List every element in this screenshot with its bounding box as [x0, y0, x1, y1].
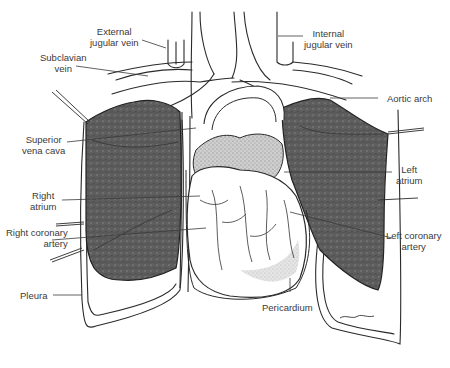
label-pericardium: Pericardium — [262, 302, 313, 313]
label-aortic-arch: Aortic arch — [387, 93, 432, 104]
leader-external-jugular — [142, 40, 166, 48]
right-lung — [86, 100, 181, 280]
label-internal-jugular-vein: Internal jugular vein — [304, 28, 353, 50]
aortic-arch — [204, 86, 284, 124]
label-left-atrium: Left atrium — [396, 164, 422, 186]
label-left-coronary-artery: Left coronary artery — [386, 230, 441, 252]
internal-jugular-vein-shape — [277, 12, 293, 65]
label-subclavian-vein: Subclavian vein — [40, 52, 86, 74]
label-external-jugular-vein: External jugular vein — [90, 26, 139, 48]
label-superior-vena-cava: Superior vena cava — [22, 134, 65, 156]
left-vessel-trunk — [191, 12, 192, 118]
artist-signature — [340, 315, 374, 318]
label-right-coronary-artery: Right coronary artery — [6, 227, 68, 249]
label-right-atrium: Right atrium — [30, 190, 56, 212]
label-pleura: Pleura — [20, 290, 47, 301]
